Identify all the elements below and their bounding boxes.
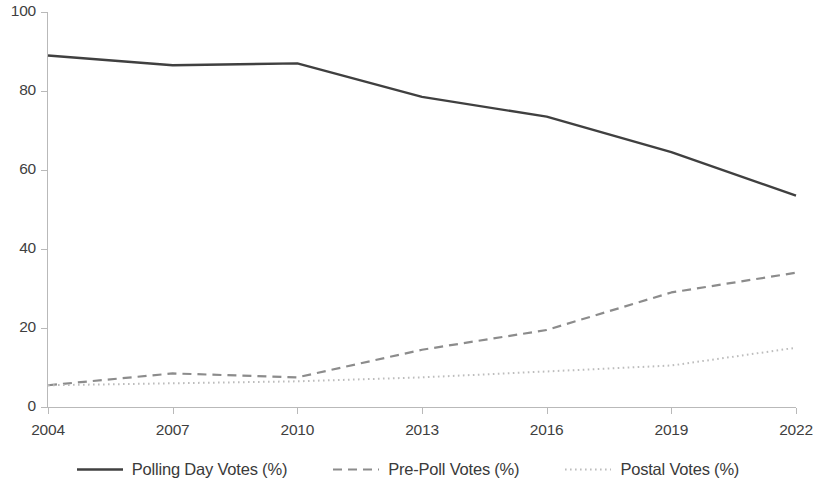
legend-label: Polling Day Votes (%): [132, 460, 287, 479]
y-tick-label: 60: [2, 160, 36, 178]
x-tick-label: 2004: [18, 421, 78, 439]
x-tick-mark: [671, 408, 672, 414]
x-tick-label: 2010: [267, 421, 327, 439]
y-tick-label: 40: [2, 239, 36, 257]
y-tick-mark: [41, 249, 47, 250]
y-tick-label: 20: [2, 318, 36, 336]
x-tick-label: 2013: [392, 421, 452, 439]
y-tick-label: 80: [2, 81, 36, 99]
x-tick-mark: [297, 408, 298, 414]
legend-swatch-solid-icon: [77, 464, 123, 475]
legend-swatch-dotted-icon: [565, 464, 611, 475]
y-tick-mark: [41, 170, 47, 171]
y-tick-mark: [41, 12, 47, 13]
x-tick-label: 2007: [143, 421, 203, 439]
legend-item-1[interactable]: Pre-Poll Votes (%): [333, 460, 519, 479]
plot-area: [48, 12, 796, 407]
y-tick-label: 100: [2, 2, 36, 20]
x-tick-mark: [547, 408, 548, 414]
x-tick-mark: [48, 408, 49, 414]
y-tick-mark: [41, 407, 47, 408]
legend-item-2[interactable]: Postal Votes (%): [565, 460, 739, 479]
x-tick-mark: [422, 408, 423, 414]
legend-swatch-dashed-icon: [333, 464, 379, 475]
series-line-1: [48, 273, 796, 386]
line-chart: 100806040200 200420072010201320162019202…: [0, 0, 816, 489]
series-canvas: [48, 12, 796, 407]
y-tick-mark: [41, 328, 47, 329]
x-tick-label: 2016: [517, 421, 577, 439]
x-tick-mark: [796, 408, 797, 414]
x-tick-label: 2019: [641, 421, 701, 439]
legend-label: Postal Votes (%): [620, 460, 739, 479]
series-line-2: [48, 348, 796, 386]
y-tick-label: 0: [2, 397, 36, 415]
y-tick-mark: [41, 91, 47, 92]
legend-label: Pre-Poll Votes (%): [388, 460, 519, 479]
series-line-0: [48, 55, 796, 195]
x-tick-mark: [173, 408, 174, 414]
chart-legend: Polling Day Votes (%)Pre-Poll Votes (%)P…: [0, 452, 816, 486]
legend-item-0[interactable]: Polling Day Votes (%): [77, 460, 287, 479]
x-tick-label: 2022: [766, 421, 816, 439]
